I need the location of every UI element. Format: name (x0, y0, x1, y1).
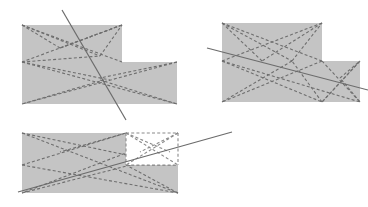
panel-1-polygon (22, 25, 177, 104)
panel-group-2 (207, 23, 368, 102)
panel-group-3 (18, 132, 232, 193)
geometry-figure-canvas (0, 0, 368, 207)
panel-group-1 (22, 10, 177, 120)
